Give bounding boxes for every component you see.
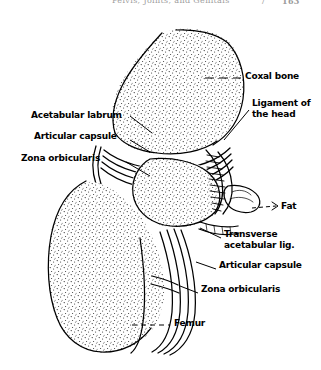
articular-capsule-upper <box>93 146 101 184</box>
label-zona-orbicularis-right-text: Zona orbicularis <box>201 284 280 294</box>
label-articular-capsule-right: Articular capsule <box>219 260 302 271</box>
hip-joint-figure <box>0 0 321 370</box>
label-transverse-acetabular-lig-line2: acetabular lig. <box>224 240 295 251</box>
label-ligament-of-the-head-line1: Ligament of <box>252 98 311 109</box>
label-zona-orbicularis-right: Zona orbicularis <box>201 284 280 295</box>
leader-fat <box>252 206 276 208</box>
coxal-bone-shape <box>100 20 260 170</box>
fat-pad-shape <box>224 185 260 212</box>
label-articular-capsule-left-text: Articular capsule <box>34 131 117 141</box>
label-fat-text: Fat <box>281 201 296 211</box>
label-coxal-bone: Coxal bone <box>245 71 299 82</box>
label-femur-text: Femur <box>174 318 205 328</box>
label-articular-capsule-left: Articular capsule <box>34 131 117 142</box>
leader-transverse-acetabular-lig <box>200 228 221 238</box>
label-femur: Femur <box>174 318 205 329</box>
label-zona-orbicularis-left-text: Zona orbicularis <box>21 153 100 163</box>
label-acetabular-labrum: Acetabular labrum <box>31 110 122 121</box>
label-coxal-bone-text: Coxal bone <box>245 71 299 81</box>
label-articular-capsule-right-text: Articular capsule <box>219 260 302 270</box>
label-transverse-acetabular-lig-line1: Transverse <box>224 229 295 240</box>
drawing-ink <box>40 20 260 360</box>
page-canvas: Pelvis, Joints, and Genitals / 163 <box>0 0 321 370</box>
label-ligament-of-the-head: Ligament of the head <box>252 98 311 120</box>
label-ligament-of-the-head-line2: the head <box>252 109 311 120</box>
label-zona-orbicularis-left: Zona orbicularis <box>21 153 100 164</box>
label-transverse-acetabular-lig: Transverse acetabular lig. <box>224 229 295 251</box>
leader-articular-capsule-right <box>196 262 216 269</box>
label-fat: Fat <box>281 201 296 212</box>
label-acetabular-labrum-text: Acetabular labrum <box>31 110 122 120</box>
